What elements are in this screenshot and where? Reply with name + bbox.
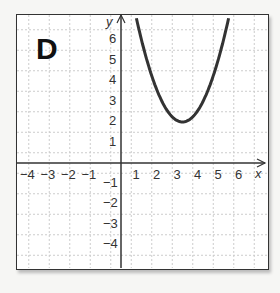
y-tick-label: 2 xyxy=(109,113,116,128)
x-tick-label: −2 xyxy=(61,167,76,182)
y-tick-label: 6 xyxy=(109,31,116,46)
x-tick-label: 6 xyxy=(235,167,242,182)
y-tick-label: −2 xyxy=(103,195,118,210)
x-axis-label: x xyxy=(255,166,262,181)
x-tick-label: 2 xyxy=(153,167,160,182)
y-tick-label: 4 xyxy=(109,72,116,87)
y-tick-label: 3 xyxy=(109,93,116,108)
x-tick-label: 3 xyxy=(174,167,181,182)
y-tick-label: −1 xyxy=(103,175,118,190)
x-tick-label: 4 xyxy=(194,167,201,182)
y-tick-label: 1 xyxy=(109,134,116,149)
y-tick-label: 5 xyxy=(109,52,116,67)
x-tick-label: −1 xyxy=(82,167,97,182)
y-tick-label: −4 xyxy=(103,236,118,251)
panel-label: D xyxy=(36,32,58,66)
y-axis-label: y xyxy=(106,14,113,29)
x-tick-label: 5 xyxy=(215,167,222,182)
y-tick-label: −3 xyxy=(103,216,118,231)
x-tick-label: −4 xyxy=(20,167,35,182)
x-tick-label: −3 xyxy=(41,167,56,182)
x-tick-label: 1 xyxy=(133,167,140,182)
parabola-curve xyxy=(136,18,228,122)
